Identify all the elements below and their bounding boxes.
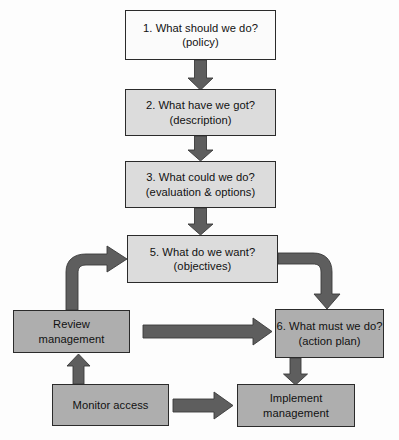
connector-layer: [0, 0, 399, 440]
node-description[interactable]: 2. What have we got? (description): [125, 89, 276, 136]
node-evaluation-options-line2: (evaluation & options): [146, 185, 255, 199]
node-implement-management[interactable]: Implement management: [237, 384, 355, 427]
node-objectives[interactable]: 5. What do we want? (objectives): [127, 235, 278, 283]
arrow-6-to-implement: [284, 358, 308, 385]
arrow-review-to-6: [143, 318, 272, 345]
node-policy-line1: 1. What should we do?: [143, 21, 258, 35]
node-evaluation-options-line1: 3. What could we do?: [146, 170, 255, 184]
node-action-plan[interactable]: 6. What must we do? (action plan): [275, 309, 384, 358]
node-implement-management-line1: Implement: [270, 391, 323, 405]
node-objectives-line2: (objectives): [174, 259, 232, 273]
arrow-1-to-2: [188, 60, 213, 90]
node-review-management-line1: Review: [53, 317, 90, 331]
node-policy-line2: (policy): [182, 35, 218, 49]
arrow-2-to-3: [188, 136, 213, 161]
node-review-management[interactable]: Review management: [13, 310, 130, 353]
node-objectives-line1: 5. What do we want?: [150, 245, 255, 259]
node-description-line1: 2. What have we got?: [146, 98, 255, 112]
node-monitor-access-line1: Monitor access: [73, 398, 149, 412]
node-policy[interactable]: 1. What should we do? (policy): [125, 10, 276, 60]
arrow-5-to-6: [278, 253, 340, 309]
arrow-3-to-5: [188, 208, 213, 235]
node-description-line2: (description): [169, 113, 231, 127]
node-implement-management-line2: management: [263, 406, 329, 420]
flowchart-canvas: 1. What should we do? (policy) 2. What h…: [0, 0, 399, 440]
node-monitor-access[interactable]: Monitor access: [52, 384, 169, 426]
arrow-monitor-to-review: [67, 354, 90, 384]
node-review-management-line2: management: [39, 332, 105, 346]
node-evaluation-options[interactable]: 3. What could we do? (evaluation & optio…: [125, 161, 276, 208]
node-action-plan-line2: (action plan): [298, 334, 360, 348]
arrow-review-to-5: [66, 246, 127, 310]
arrow-monitor-to-implement: [173, 392, 233, 419]
node-action-plan-line1: 6. What must we do?: [276, 319, 382, 333]
